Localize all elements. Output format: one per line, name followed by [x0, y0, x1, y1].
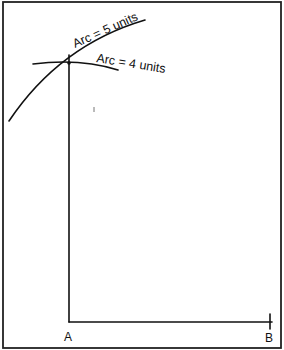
intersection-point: [67, 61, 71, 65]
arc-5-label: Arc = 5 units: [71, 10, 140, 51]
diagram-frame: [3, 2, 281, 348]
diagram-canvas: Arc = 5 units Arc = 4 units A B: [0, 0, 284, 350]
point-a-label: A: [64, 330, 72, 344]
point-b-label: B: [265, 331, 273, 345]
arc-4-label: Arc = 4 units: [96, 51, 167, 76]
